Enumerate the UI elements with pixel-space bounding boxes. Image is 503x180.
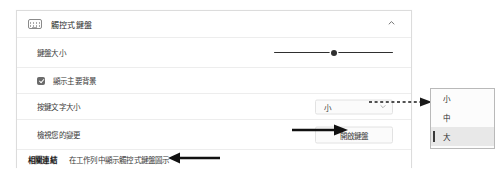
related-links-heading: 相關連結 — [28, 154, 57, 165]
related-links-section: 相關連結 在工作列中顯示觸控式鍵盤圖示 — [17, 150, 411, 169]
card-header[interactable]: 觸控式鍵盤 — [17, 11, 411, 38]
key-text-size-dropdown[interactable]: 小 — [315, 99, 393, 114]
touch-keyboard-settings-card: 觸控式鍵盤 鍵盤大小 顯示主要背景 按鍵文字大小 小 — [16, 10, 412, 168]
key-text-size-menu[interactable]: 小 中 大 — [430, 88, 495, 149]
taskbar-keyboard-icon-link[interactable]: 在工作列中顯示觸控式鍵盤圖示 — [69, 154, 170, 165]
chevron-down-icon[interactable] — [380, 104, 386, 110]
menu-item-label: 中 — [443, 112, 450, 123]
key-text-size-value: 小 — [324, 101, 331, 112]
menu-item-small[interactable]: 小 — [431, 89, 494, 108]
keyboard-icon — [28, 19, 42, 29]
row-view-changes: 檢視您的變更 開啟鍵盤 — [17, 120, 411, 150]
menu-item-large[interactable]: 大 — [431, 127, 494, 146]
show-key-background-label: 顯示主要背景 — [53, 75, 96, 86]
page-title: 觸控式鍵盤 — [51, 19, 92, 30]
open-keyboard-button-label: 開啟鍵盤 — [340, 129, 369, 140]
slider-thumb[interactable] — [331, 50, 337, 56]
row-show-key-background[interactable]: 顯示主要背景 — [17, 68, 411, 94]
chevron-up-icon[interactable] — [388, 20, 395, 27]
open-keyboard-button[interactable]: 開啟鍵盤 — [315, 126, 393, 143]
menu-item-medium[interactable]: 中 — [431, 108, 494, 127]
menu-item-label: 大 — [443, 131, 450, 142]
row-keyboard-size: 鍵盤大小 — [17, 38, 411, 68]
view-changes-label: 檢視您的變更 — [37, 129, 80, 140]
menu-item-label: 小 — [443, 93, 450, 104]
row-key-text-size: 按鍵文字大小 小 — [17, 94, 411, 120]
key-text-size-label: 按鍵文字大小 — [37, 101, 80, 112]
keyboard-size-label: 鍵盤大小 — [37, 47, 66, 58]
keyboard-size-slider[interactable] — [274, 47, 393, 59]
show-key-background-checkbox[interactable] — [37, 77, 45, 85]
